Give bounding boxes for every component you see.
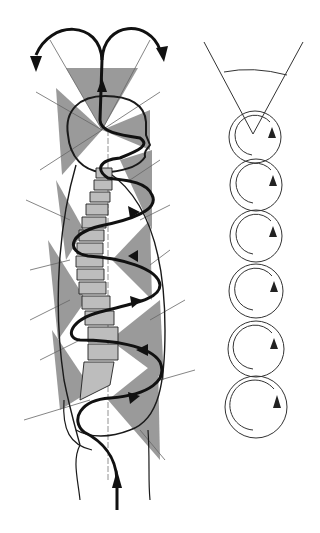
rotation-circles <box>225 111 287 438</box>
spine-vertebrae <box>76 168 118 400</box>
spiral-spine-diagram <box>0 0 320 533</box>
cone-angle <box>204 42 303 134</box>
